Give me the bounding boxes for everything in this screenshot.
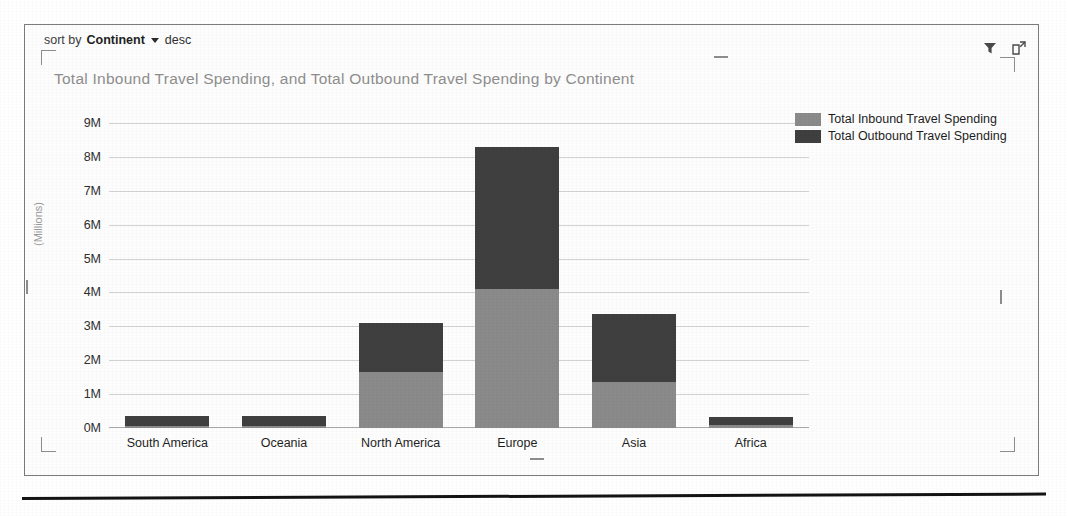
legend-swatch	[795, 130, 821, 143]
chart-title: Total Inbound Travel Spending, and Total…	[54, 70, 634, 88]
chart-legend[interactable]: Total Inbound Travel SpendingTotal Outbo…	[795, 112, 1007, 146]
x-axis-ticks: South AmericaOceaniaNorth AmericaEuropeA…	[109, 436, 809, 456]
bar-segment-inbound[interactable]	[709, 425, 793, 428]
legend-swatch	[795, 113, 821, 126]
visual-header-actions[interactable]	[982, 40, 1027, 56]
visual-edge-handle-top[interactable]	[714, 56, 728, 58]
bar-series-group	[109, 123, 809, 428]
x-tick-label: Asia	[622, 436, 646, 450]
bar-segment-outbound[interactable]	[475, 147, 559, 289]
visual-corner-top-right	[1000, 57, 1015, 72]
focus-mode-icon[interactable]	[1011, 40, 1027, 56]
y-tick-label: 1M	[61, 387, 101, 401]
sort-field-label[interactable]: Continent	[87, 33, 145, 47]
x-tick-label: Europe	[497, 436, 537, 450]
bar-column[interactable]	[125, 416, 209, 428]
sort-prefix-label: sort by	[44, 33, 82, 47]
y-tick-label: 8M	[61, 150, 101, 164]
visual-edge-handle-bottom[interactable]	[530, 458, 544, 460]
y-tick-label: 9M	[61, 116, 101, 130]
bar-column[interactable]	[242, 416, 326, 428]
bar-segment-inbound[interactable]	[125, 426, 209, 428]
x-tick-label: Africa	[735, 436, 767, 450]
y-tick-label: 4M	[61, 285, 101, 299]
visual-corner-top-left	[41, 50, 56, 65]
bar-column[interactable]	[709, 417, 793, 428]
y-tick-label: 5M	[61, 252, 101, 266]
bar-segment-outbound[interactable]	[709, 417, 793, 425]
bar-segment-inbound[interactable]	[592, 382, 676, 428]
x-tick-label: North America	[361, 436, 440, 450]
legend-label: Total Outbound Travel Spending	[828, 129, 1007, 143]
visual-edge-handle-left[interactable]	[26, 280, 28, 294]
bar-segment-inbound[interactable]	[359, 372, 443, 428]
y-tick-label: 2M	[61, 353, 101, 367]
bar-segment-inbound[interactable]	[242, 426, 326, 428]
filter-icon[interactable]	[982, 40, 998, 56]
bar-segment-inbound[interactable]	[475, 289, 559, 428]
y-axis-label: (Millions)	[32, 202, 44, 246]
page-bottom-rule	[22, 493, 1046, 500]
bar-column[interactable]	[359, 323, 443, 428]
legend-label: Total Inbound Travel Spending	[828, 112, 997, 126]
bar-segment-outbound[interactable]	[242, 416, 326, 426]
y-tick-label: 3M	[61, 319, 101, 333]
bar-segment-outbound[interactable]	[125, 416, 209, 426]
visual-corner-bottom-right	[1000, 437, 1015, 452]
bar-column[interactable]	[475, 147, 559, 428]
visual-edge-handle-right[interactable]	[1000, 290, 1002, 304]
y-tick-label: 7M	[61, 184, 101, 198]
y-tick-label: 0M	[61, 421, 101, 435]
y-tick-label: 6M	[61, 218, 101, 232]
legend-item[interactable]: Total Outbound Travel Spending	[795, 129, 1007, 143]
x-tick-label: Oceania	[261, 436, 308, 450]
chevron-down-icon[interactable]	[151, 38, 159, 43]
bar-column[interactable]	[592, 314, 676, 428]
bar-segment-outbound[interactable]	[592, 314, 676, 382]
sort-direction-label[interactable]: desc	[165, 33, 191, 47]
legend-item[interactable]: Total Inbound Travel Spending	[795, 112, 1007, 126]
visual-corner-bottom-left	[41, 437, 56, 452]
bar-segment-outbound[interactable]	[359, 323, 443, 372]
sort-control[interactable]: sort by Continent desc	[44, 33, 191, 47]
x-tick-label: South America	[127, 436, 208, 450]
